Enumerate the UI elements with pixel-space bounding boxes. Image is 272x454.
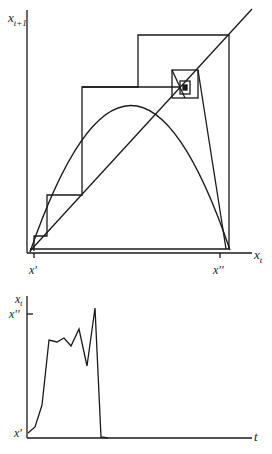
top-cobweb-plot — [27, 9, 252, 258]
top-ylabel: xt+1 — [7, 10, 27, 28]
diagonal-line — [30, 9, 252, 251]
top-tick-label-low: x' — [28, 263, 37, 277]
cobweb-figure: xt+1 xt x' x'' xt x'' x' t — [0, 0, 272, 454]
bottom-timeseries-plot — [27, 296, 252, 438]
cobweb-path — [34, 35, 229, 251]
top-xlabel: xt — [253, 247, 263, 265]
bottom-ylabel: xt — [14, 292, 23, 308]
bottom-tick-label-low: x' — [13, 426, 22, 440]
bottom-xlabel: t — [254, 429, 258, 444]
parabola-curve — [30, 105, 230, 252]
top-tick-label-high: x'' — [212, 263, 224, 277]
timeseries-line — [28, 308, 108, 438]
bottom-tick-label-high: x'' — [8, 307, 20, 321]
